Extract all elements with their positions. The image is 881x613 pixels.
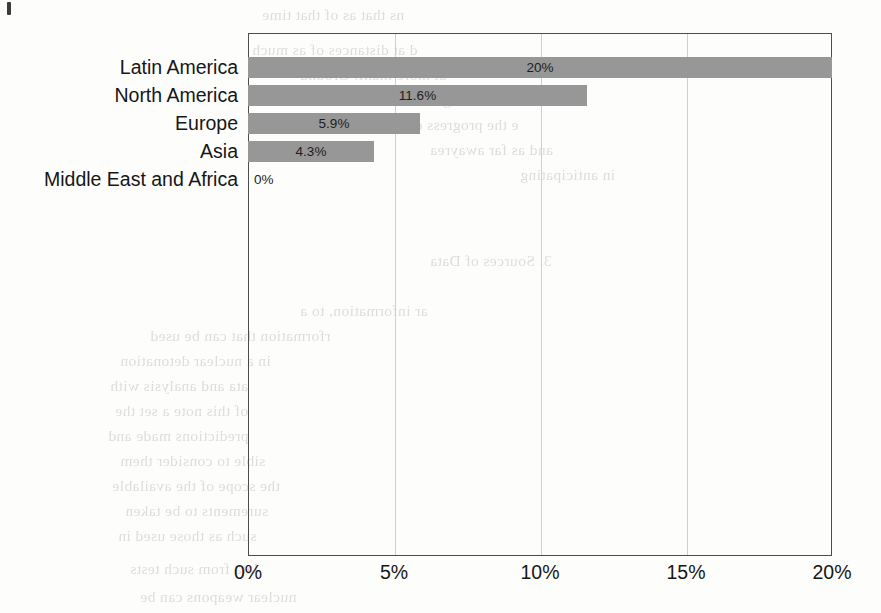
x-axis-tick-labels: 0% 5% 10% 15% 20%	[0, 561, 881, 591]
x-tick-label: 0%	[234, 561, 262, 584]
bar-value-label: 5.9%	[248, 113, 420, 134]
page-edge-mark	[7, 2, 11, 15]
category-label: North America	[0, 85, 243, 106]
category-label: Asia	[0, 141, 243, 162]
bars-layer: 20% 11.6% 5.9% 4.3% 0%	[248, 33, 832, 556]
x-tick-label: 10%	[520, 561, 559, 584]
bar-chart: Latin America North America Europe Asia …	[0, 0, 881, 613]
scanned-chart-page: ns that as of that time d at distances o…	[0, 0, 881, 613]
bar-row[interactable]: 5.9%	[248, 113, 420, 134]
bar-value-label: 11.6%	[248, 85, 587, 106]
x-tick-label: 15%	[666, 561, 705, 584]
category-label: Latin America	[0, 57, 243, 78]
x-tick-label: 20%	[812, 561, 851, 584]
x-tick-label: 5%	[380, 561, 408, 584]
bar-row[interactable]: 4.3%	[248, 141, 374, 162]
bar-row[interactable]: 20%	[248, 57, 832, 78]
category-label: Europe	[0, 113, 243, 134]
bar-value-label: 20%	[248, 57, 832, 78]
category-label: Middle East and Africa	[0, 169, 243, 190]
bar-value-label: 4.3%	[248, 141, 374, 162]
bar-value-label: 0%	[248, 169, 274, 190]
bar-row[interactable]: 11.6%	[248, 85, 587, 106]
